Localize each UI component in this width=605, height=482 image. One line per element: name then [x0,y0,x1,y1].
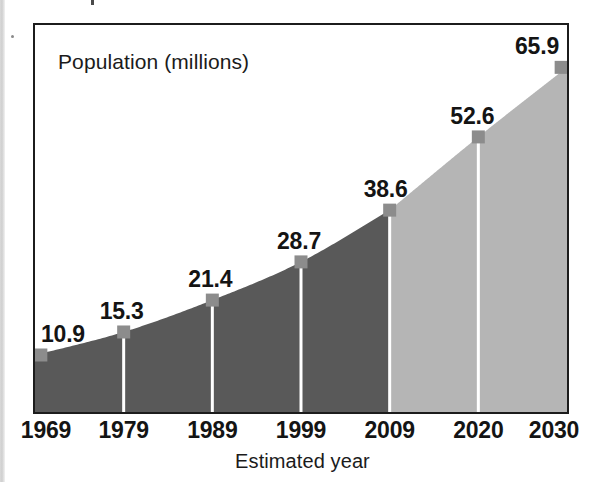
chart-frame: Population (millions) 10.915.321.428.738… [33,23,569,414]
data-point-marker[interactable] [295,255,308,268]
data-point-label: 10.9 [41,321,85,348]
data-point-marker[interactable] [206,294,219,307]
x-axis-tick-1979: 1979 [98,417,148,444]
x-axis-tick-2030: 2030 [529,417,579,444]
data-point-marker[interactable] [555,61,567,74]
data-point-marker[interactable] [472,130,485,143]
x-axis-tick-1989: 1989 [187,417,237,444]
data-point-label: 65.9 [515,33,559,60]
x-axis-tick-2009: 2009 [364,417,414,444]
scan-speck-icon [11,35,14,38]
data-point-label: 52.6 [450,103,494,130]
data-point-label: 21.4 [188,266,232,293]
data-point-marker[interactable] [383,204,396,217]
x-axis-tick-labels: 1969197919891999200920202030 [0,417,605,449]
plot-surface [35,25,567,412]
area-chart-svg [35,25,567,412]
x-axis-tick-1999: 1999 [276,417,326,444]
data-point-label: 28.7 [277,228,321,255]
page-scan-edge [0,0,5,482]
x-axis-tick-1969: 1969 [21,417,71,444]
x-axis-tick-2020: 2020 [453,417,503,444]
scan-speck-icon [91,0,94,5]
data-point-marker[interactable] [35,348,47,361]
data-point-label: 15.3 [100,298,144,325]
data-point-label: 38.6 [364,176,408,203]
plot-title: Population (millions) [58,50,249,74]
data-point-marker[interactable] [117,325,130,338]
x-axis-title: Estimated year [0,450,605,473]
